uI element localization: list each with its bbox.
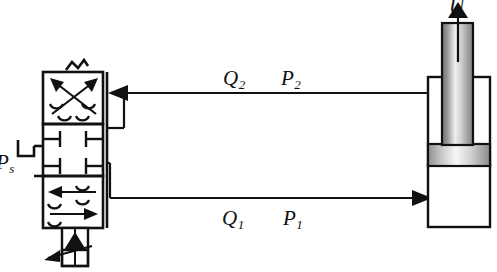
label-flow-q1: Q1 (222, 208, 244, 231)
cylinder-cap-chamber (428, 165, 490, 227)
schematic-canvas (0, 0, 497, 272)
crossed-arrowhead-right (84, 78, 98, 92)
return-line-arrowhead (108, 85, 128, 101)
double-acting-cylinder (428, 2, 490, 227)
valve-spring-zigzag (66, 60, 88, 70)
valve-port-crescents-top (50, 104, 95, 120)
label-supply-pressure: Ps (0, 152, 14, 175)
label-pressure-p2: P2 (281, 68, 301, 91)
supply-line-q1 (107, 163, 432, 206)
label-flow-q2: Q2 (223, 68, 245, 91)
label-pressure-p1: P1 (283, 208, 303, 231)
label-velocity-u: U (449, 0, 464, 17)
valve-position-closed-center (43, 131, 103, 174)
valve-assembly (18, 60, 107, 266)
supply-port-bracket (18, 140, 34, 156)
parallel-arrowhead-right (84, 208, 98, 220)
hydraulic-schematic: Q2 P2 Q1 P1 Ps U (0, 0, 497, 272)
proportional-arrowhead (44, 250, 60, 262)
cylinder-piston (428, 144, 490, 166)
parallel-arrowhead-left (48, 186, 62, 198)
crossed-arrowhead-left (50, 78, 64, 92)
return-line-q2 (107, 85, 430, 128)
